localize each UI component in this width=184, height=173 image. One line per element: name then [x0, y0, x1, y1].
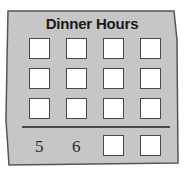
answer-box[interactable]: [29, 68, 50, 89]
answer-box[interactable]: [140, 98, 161, 119]
answer-box[interactable]: [29, 38, 50, 59]
answer-box[interactable]: [66, 68, 87, 89]
divider-line: [22, 126, 170, 128]
answer-box[interactable]: [103, 68, 124, 89]
answer-box[interactable]: [29, 98, 50, 119]
answer-box[interactable]: [66, 38, 87, 59]
answer-box[interactable]: [140, 38, 161, 59]
answer-box[interactable]: [140, 135, 161, 156]
answer-box[interactable]: [103, 38, 124, 59]
answer-box[interactable]: [140, 68, 161, 89]
answer-box[interactable]: [103, 98, 124, 119]
answer-box[interactable]: [66, 98, 87, 119]
answer-box[interactable]: [103, 135, 124, 156]
card-title: Dinner Hours: [0, 15, 184, 32]
given-number: 5: [35, 137, 44, 157]
given-number: 6: [72, 137, 81, 157]
